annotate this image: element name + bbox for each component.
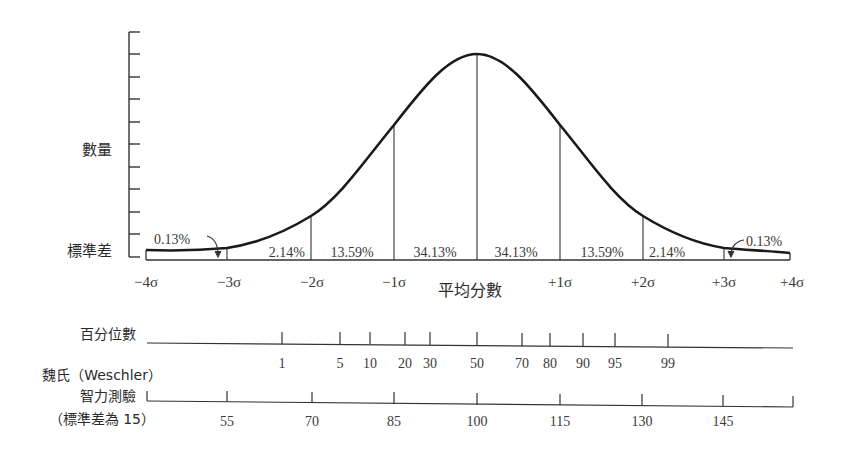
iq-value: 55 (220, 414, 234, 429)
band-label: 13.59% (580, 245, 624, 260)
band-label: 2.14% (649, 245, 686, 260)
percentile-value: 30 (423, 356, 437, 371)
percentile-value: 99 (661, 356, 675, 371)
sigma-label: +3σ (712, 274, 736, 290)
band-label: 13.59% (330, 245, 374, 260)
percentile-axis (147, 332, 793, 348)
iq-axis (147, 391, 793, 407)
wechsler-label: 魏氏（Weschler） (42, 367, 162, 383)
iq-value: 85 (387, 414, 401, 429)
bell-curve (146, 54, 790, 253)
percentile-value: 10 (363, 356, 377, 371)
percentile-label: 百分位數 (80, 326, 136, 342)
iq-value: 145 (713, 414, 734, 429)
sigma-label: −4σ (134, 274, 158, 290)
percentile-value: 90 (576, 356, 590, 371)
sigma-label: −2σ (300, 274, 324, 290)
band-label: 0.13% (746, 234, 783, 249)
band-label: 2.14% (269, 245, 306, 260)
band-label: 34.13% (494, 245, 538, 260)
sigma-label: +2σ (631, 274, 655, 290)
y-axis (129, 32, 140, 257)
mean-label: 平均分數 (438, 281, 502, 300)
iq-value: 70 (305, 414, 319, 429)
percentile-values: 1 5 10 20 30 50 70 80 90 95 99 (279, 356, 676, 371)
wechsler-sd-label: （標準差為 15） (49, 411, 155, 427)
sigma-label: −1σ (382, 274, 406, 290)
percentile-value: 20 (398, 356, 412, 371)
sigma-label: +1σ (548, 274, 572, 290)
std-dev-label: 標準差 (67, 242, 112, 260)
percentile-value: 5 (337, 356, 344, 371)
iq-value: 115 (550, 414, 570, 429)
baseline (146, 250, 790, 260)
iq-value: 100 (467, 414, 488, 429)
sigma-dividers (227, 54, 724, 260)
normal-distribution-diagram: 數量 標準差 0.13% 2.14% 13.59% 34.13% 34.13% … (0, 0, 842, 463)
percentile-value: 80 (543, 356, 557, 371)
sigma-label: −3σ (217, 274, 241, 290)
y-axis-label: 數量 (82, 141, 112, 159)
iq-values: 55 70 85 100 115 130 145 (220, 414, 734, 429)
iq-value: 130 (632, 414, 653, 429)
percentile-value: 50 (470, 356, 484, 371)
band-percentages: 0.13% 2.14% 13.59% 34.13% 34.13% 13.59% … (154, 232, 783, 260)
percentile-value: 1 (279, 356, 286, 371)
band-label: 34.13% (413, 245, 457, 260)
wechsler-label: 智力測驗 (80, 388, 136, 404)
sigma-label: +4σ (780, 274, 804, 290)
band-label: 0.13% (154, 232, 191, 247)
percentile-value: 95 (608, 356, 622, 371)
percentile-value: 70 (515, 356, 529, 371)
